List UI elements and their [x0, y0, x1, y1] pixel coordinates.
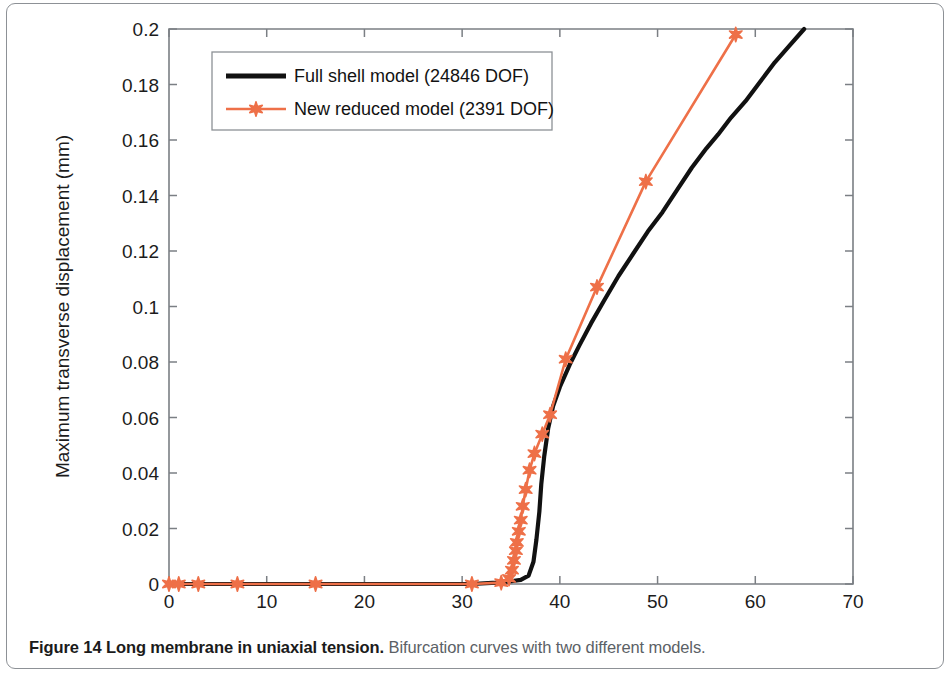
y-tick-label: 0.02 — [122, 519, 159, 540]
y-axis-title: Maximum transverse displacement (mm) — [52, 135, 73, 478]
series-marker — [528, 446, 540, 460]
series-marker — [513, 524, 525, 538]
y-tick-label: 0.18 — [122, 75, 159, 96]
y-tick-label: 0.1 — [133, 297, 159, 318]
series-marker — [508, 553, 520, 567]
figure-frame: 01020304050607000.020.040.060.080.10.120… — [6, 3, 944, 669]
figure-caption: Figure 14 Long membrane in uniaxial tens… — [29, 637, 919, 658]
x-axis-title: Tensile load Ny (N/mm) — [412, 619, 609, 622]
x-tick-label: 20 — [354, 591, 375, 612]
figure-caption-title: Figure 14 Long membrane in uniaxial tens… — [29, 638, 384, 656]
chart-legend: Full shell model (24846 DOF)New reduced … — [212, 52, 554, 130]
y-tick-label: 0.2 — [133, 19, 159, 40]
y-tick-label: 0.16 — [122, 130, 159, 151]
y-tick-label: 0.06 — [122, 408, 159, 429]
series-marker — [516, 499, 528, 513]
figure-caption-text: Bifurcation curves with two different mo… — [384, 638, 706, 656]
chart-plot-area: 01020304050607000.020.040.060.080.10.120… — [7, 4, 945, 622]
legend-label: New reduced model (2391 DOF) — [294, 99, 554, 119]
y-tick-label: 0.04 — [122, 463, 159, 484]
x-tick-label: 70 — [842, 591, 863, 612]
bifurcation-chart: 01020304050607000.020.040.060.080.10.120… — [7, 4, 945, 622]
series-marker — [591, 280, 603, 294]
series-marker — [523, 463, 535, 477]
x-tick-label: 0 — [164, 591, 175, 612]
x-tick-label: 30 — [452, 591, 473, 612]
series-marker — [515, 513, 527, 527]
series-marker — [519, 482, 531, 496]
y-tick-label: 0.08 — [122, 352, 159, 373]
x-tick-label: 60 — [745, 591, 766, 612]
legend-label: Full shell model (24846 DOF) — [294, 66, 529, 86]
x-tick-label: 40 — [549, 591, 570, 612]
x-tick-label: 50 — [647, 591, 668, 612]
series-marker — [544, 408, 556, 422]
y-tick-label: 0.12 — [122, 241, 159, 262]
y-tick-label: 0 — [148, 574, 159, 595]
x-tick-label: 10 — [256, 591, 277, 612]
y-tick-label: 0.14 — [122, 186, 159, 207]
